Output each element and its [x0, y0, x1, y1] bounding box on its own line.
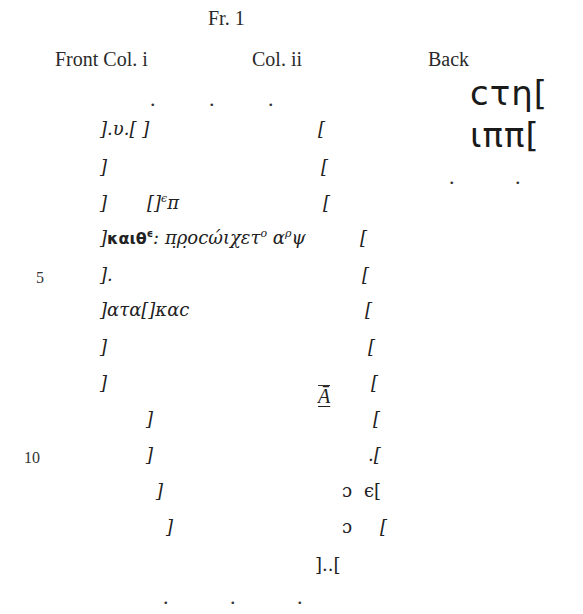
lacuna-dot: .: [230, 586, 236, 608]
col-ii-line-3: [: [323, 194, 330, 212]
col-i-line-8: ]: [100, 374, 107, 392]
lacuna-dot: .: [268, 88, 274, 110]
lacuna-dot: .: [297, 586, 303, 608]
line-number-10: 10: [24, 450, 40, 466]
col-i-line-5: ].: [100, 266, 113, 284]
lacuna-dot: .: [449, 166, 455, 188]
col-ii-line-13: ]..[: [315, 556, 341, 574]
col-i-line-7: ]: [100, 338, 107, 356]
lacuna-dot: .: [515, 166, 521, 188]
fragment-title: Fr. 1: [208, 8, 245, 28]
col-i-line-10: ]: [146, 446, 153, 464]
col-i-line-2: ]: [100, 158, 107, 176]
back-line-1: cτη[: [470, 76, 548, 110]
col-i-line-3-prefix: ]: [100, 192, 107, 213]
col-i-line-11: ]: [156, 482, 163, 500]
column-header-back: Back: [428, 49, 469, 69]
col-i-line-4-sup2: ο: [260, 227, 267, 240]
col-ii-marginal-antisigma: ɔ: [342, 518, 352, 536]
col-i-line-4: ]καιθϵ: π̣ρ̣οcώιχετο αρψ: [100, 229, 306, 247]
col-i-line-3: ][]ϵπ: [100, 194, 179, 212]
lacuna-dot: .: [150, 88, 156, 110]
col-ii-line-5: [: [362, 266, 369, 284]
col-ii-line-7: [: [368, 338, 375, 356]
col-ii-marginal-a: Ā: [318, 385, 330, 406]
col-ii-line-12: [: [380, 518, 387, 536]
col-ii-line-11: ϵ[: [364, 482, 381, 500]
col-i-line-4-bold: καιθ: [107, 229, 147, 248]
col-i-line-4-end: ψ: [291, 227, 305, 248]
col-ii-line-2: [: [321, 158, 328, 176]
col-i-line-6: ]ατα[]καc: [100, 301, 189, 319]
col-i-line-4-text2: α: [273, 227, 285, 248]
column-header-front-col-i: Front Col. i: [55, 49, 148, 69]
col-i-line-3-gap: []: [147, 192, 161, 213]
col-i-line-12: ]: [166, 518, 173, 536]
lacuna-dot: .: [163, 586, 169, 608]
back-line-2: ιππ[: [470, 118, 540, 152]
col-ii-line-1: [: [318, 120, 325, 138]
col-ii-line-10: .[: [368, 446, 381, 464]
col-i-line-4-mark: :: [153, 227, 159, 248]
line-number-5: 5: [36, 270, 44, 286]
col-i-line-3-text: π: [167, 192, 179, 213]
col-ii-line-4: [: [360, 229, 367, 247]
col-ii-line-9: [: [373, 410, 380, 428]
col-i-line-1: ].υ.[ ]: [100, 120, 149, 138]
col-ii-line-6: [: [365, 301, 372, 319]
col-i-line-4-text: π̣ρ̣οcώιχετ: [165, 227, 261, 248]
col-ii-marginal-antisigma: ɔ: [342, 482, 352, 500]
col-i-line-9: ]: [146, 410, 153, 428]
col-ii-line-8: [: [371, 374, 378, 392]
lacuna-dot: .: [209, 88, 215, 110]
column-header-col-ii: Col. ii: [252, 49, 302, 69]
